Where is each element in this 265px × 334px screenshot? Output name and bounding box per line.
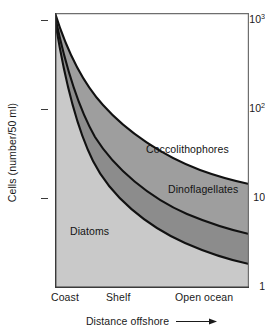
x-axis-title-row: Distance offshore: [55, 312, 249, 330]
rightward-arrow-icon: [176, 317, 218, 326]
y-tick-mark-10: [41, 198, 48, 199]
stacked-area-plot: [55, 13, 249, 288]
y-tick-label-10-text: 10: [253, 191, 265, 203]
plot-area: Coccolithophores Dinoflagellates Diatoms: [55, 13, 249, 288]
x-axis-title: Distance offshore: [86, 315, 169, 327]
x-tick-label-open-ocean: Open ocean: [175, 291, 233, 303]
x-tick-label-shelf: Shelf: [106, 291, 130, 303]
x-tick-label-coast: Coast: [51, 291, 79, 303]
y-tick-mark-100: [41, 109, 48, 110]
y-axis-title: Cells (number/50 ml): [4, 15, 20, 290]
y-tick-label-1-text: 1: [259, 280, 265, 292]
phytoplankton-distribution-figure: Cells (number/50 ml) 103 102 10 1: [0, 0, 265, 334]
y-tick-label-100-text: 102: [249, 102, 265, 114]
y-tick-label-1000-text: 103: [249, 13, 265, 25]
y-tick-mark-1000: [41, 20, 48, 21]
